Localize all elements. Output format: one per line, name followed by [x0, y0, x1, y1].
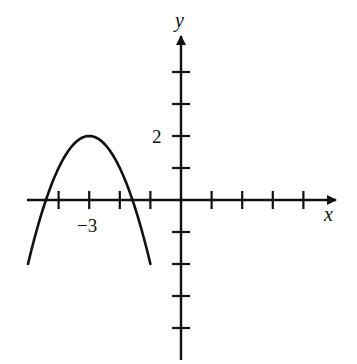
- tick-label-y-2: 2: [152, 126, 162, 147]
- tick-label-x-neg3: −3: [77, 215, 97, 236]
- y-axis-label: y: [173, 9, 184, 32]
- x-axis-label: x: [323, 203, 333, 225]
- function-graph: y x −3 2: [0, 0, 357, 364]
